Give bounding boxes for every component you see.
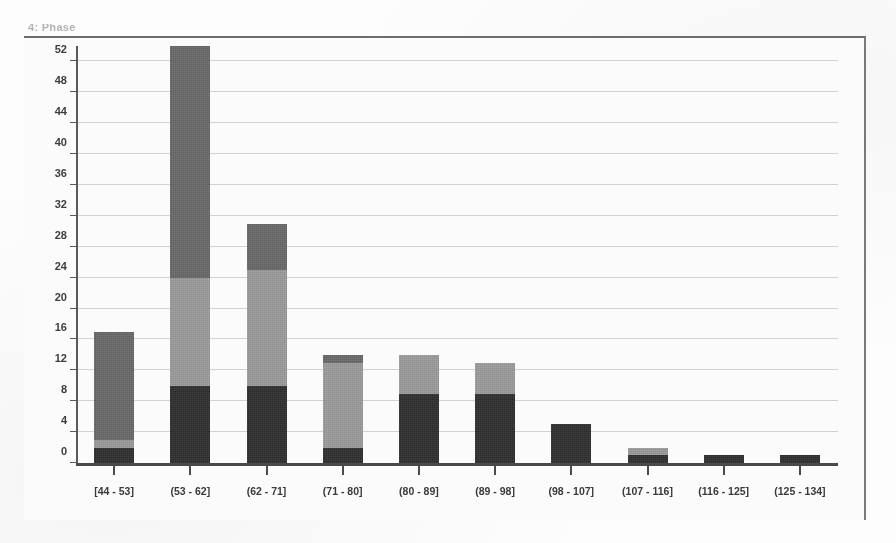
bar-stack[interactable] — [704, 455, 744, 463]
bar-segment-medium-gray[interactable] — [170, 46, 210, 278]
y-tick-mark — [70, 431, 77, 432]
x-tick-label: (53 - 62] — [170, 485, 210, 497]
x-tick-label: (116 - 125] — [698, 485, 749, 497]
y-tick-label: 20 — [55, 291, 67, 303]
y-tick-label: 4 — [61, 414, 67, 426]
x-tick-mark — [570, 466, 572, 475]
x-tick-mark — [723, 466, 725, 475]
bar-stack[interactable] — [247, 224, 287, 463]
x-tick-label: (98 - 107] — [549, 485, 595, 497]
bar-segment-dark[interactable] — [628, 455, 668, 463]
y-axis-line — [76, 46, 78, 466]
bar-segment-light-gray[interactable] — [94, 440, 134, 448]
y-tick-label: 12 — [55, 352, 67, 364]
bar-stack[interactable] — [628, 448, 668, 463]
bar-segment-dark[interactable] — [704, 455, 744, 463]
bar-segment-dark[interactable] — [475, 394, 515, 464]
y-tick-label: 36 — [55, 167, 67, 179]
bar-segment-dark[interactable] — [247, 386, 287, 463]
bar-segment-dark[interactable] — [551, 424, 591, 463]
x-tick-label: (80 - 89] — [399, 485, 439, 497]
bar-segment-light-gray[interactable] — [170, 278, 210, 386]
y-tick-label: 32 — [55, 198, 67, 210]
bar-segment-light-gray[interactable] — [247, 270, 287, 386]
bar-segment-medium-gray[interactable] — [323, 355, 363, 363]
bar-stack[interactable] — [399, 355, 439, 463]
y-tick-label: 52 — [55, 43, 67, 55]
bar-stack[interactable] — [94, 332, 134, 463]
bar-segment-medium-gray[interactable] — [247, 224, 287, 270]
x-tick-mark — [189, 466, 191, 475]
y-tick-mark — [70, 400, 77, 401]
x-tick-mark — [418, 466, 420, 475]
bar-segment-dark[interactable] — [94, 448, 134, 463]
x-tick-mark — [113, 466, 115, 475]
bar-segment-dark[interactable] — [323, 448, 363, 463]
bar-segment-dark[interactable] — [399, 394, 439, 464]
window-title: 4: Phase — [28, 24, 76, 33]
y-tick-label: 48 — [55, 74, 67, 86]
bar-segment-dark[interactable] — [780, 455, 820, 463]
x-tick-mark — [266, 466, 268, 475]
x-tick-mark — [647, 466, 649, 475]
x-tick-label: (125 - 134] — [774, 485, 825, 497]
x-tick-label: (62 - 71] — [247, 485, 287, 497]
x-tick-label: [44 - 53] — [94, 485, 134, 497]
y-tick-mark — [70, 308, 77, 309]
right-edge-rail[interactable] — [864, 38, 866, 520]
bar-stack[interactable] — [551, 424, 591, 463]
y-tick-mark — [70, 122, 77, 123]
y-tick-mark — [70, 215, 77, 216]
plot-area: 0481216202428323640444852 [44 - 53](53 -… — [76, 46, 838, 466]
y-tick-mark — [70, 60, 77, 61]
bar-segment-light-gray[interactable] — [399, 355, 439, 394]
x-tick-label: (71 - 80] — [323, 485, 363, 497]
y-tick-label: 24 — [55, 260, 67, 272]
y-tick-label: 0 — [61, 445, 67, 457]
y-tick-label: 44 — [55, 105, 67, 117]
chart-frame: 0481216202428323640444852 [44 - 53](53 -… — [24, 36, 866, 520]
y-tick-label: 16 — [55, 321, 67, 333]
x-tick-label: (107 - 116] — [622, 485, 673, 497]
x-tick-mark — [799, 466, 801, 475]
scanned-page: 4: Phase 0481216202428323640444852 [44 -… — [0, 0, 896, 543]
bar-stack[interactable] — [475, 363, 515, 463]
y-tick-mark — [70, 369, 77, 370]
y-tick-mark — [70, 277, 77, 278]
bar-stack[interactable] — [170, 46, 210, 463]
bar-stack[interactable] — [780, 455, 820, 463]
y-tick-mark — [70, 153, 77, 154]
bar-stack[interactable] — [323, 355, 363, 463]
bar-segment-light-gray[interactable] — [628, 448, 668, 456]
y-tick-label: 28 — [55, 229, 67, 241]
bar-segment-dark[interactable] — [170, 386, 210, 463]
bar-segment-light-gray[interactable] — [475, 363, 515, 394]
y-tick-mark — [70, 338, 77, 339]
x-tick-mark — [342, 466, 344, 475]
y-tick-mark — [70, 91, 77, 92]
y-tick-mark — [70, 184, 77, 185]
x-tick-mark — [494, 466, 496, 475]
bar-segment-medium-gray[interactable] — [94, 332, 134, 440]
y-tick-label: 40 — [55, 136, 67, 148]
y-tick-mark — [70, 246, 77, 247]
x-tick-label: (89 - 98] — [475, 485, 515, 497]
bar-segment-light-gray[interactable] — [323, 363, 363, 448]
y-tick-label: 8 — [61, 383, 67, 395]
y-tick-mark — [70, 462, 77, 463]
